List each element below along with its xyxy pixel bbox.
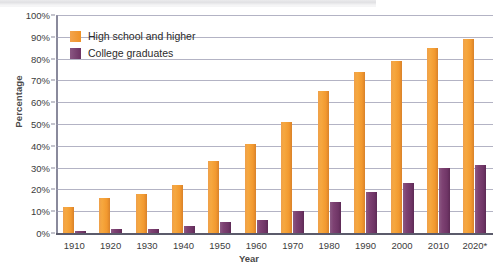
bar-high-school-1910 — [63, 207, 74, 233]
legend-item-college: College graduates — [70, 47, 195, 59]
x-axis-tick-label: 1910 — [64, 240, 85, 251]
bar-chart: Percentage Year 0%10%20%30%40%50%60%70%8… — [0, 0, 498, 273]
bar-group: 1970 — [275, 15, 311, 233]
bar-college-2020 — [475, 165, 486, 233]
bar-college-1940 — [184, 226, 195, 233]
y-axis-tick-label: 70% — [31, 75, 50, 86]
x-axis-tick-label: 2020* — [462, 240, 487, 251]
y-axis-title: Percentage — [13, 56, 24, 148]
legend-swatch-icon-college — [70, 48, 81, 59]
bar-high-school-1950 — [208, 161, 219, 233]
x-axis-tick-label: 1980 — [319, 240, 340, 251]
bar-college-1950 — [220, 222, 231, 233]
bar-group: 2020* — [457, 15, 493, 233]
x-axis-tick-label: 1940 — [173, 240, 194, 251]
legend-label-college: College graduates — [88, 47, 173, 59]
bar-college-1970 — [293, 211, 304, 233]
bar-high-school-1970 — [281, 122, 292, 233]
x-axis-tick-label: 2010 — [428, 240, 449, 251]
x-axis-tick-label: 1970 — [282, 240, 303, 251]
y-axis-tick-mark — [51, 124, 55, 125]
y-axis-tick-label: 10% — [31, 206, 50, 217]
bar-group: 2000 — [384, 15, 420, 233]
y-axis-tick-label: 50% — [31, 119, 50, 130]
chart-legend: High school and higher College graduates — [70, 30, 195, 59]
gridline — [56, 233, 493, 235]
bar-college-1920 — [111, 229, 122, 233]
x-axis-tick-label: 1930 — [136, 240, 157, 251]
bar-college-1910 — [75, 231, 86, 233]
bar-college-2010 — [439, 168, 450, 233]
legend-swatch-icon-high-school — [70, 31, 81, 42]
x-axis-tick-label: 1920 — [100, 240, 121, 251]
y-axis-tick-label: 30% — [31, 162, 50, 173]
bar-group: 1960 — [238, 15, 274, 233]
x-axis-tick-label: 1960 — [246, 240, 267, 251]
y-axis-tick-mark — [51, 80, 55, 81]
bar-high-school-2020 — [463, 39, 474, 233]
y-axis-tick-mark — [51, 58, 55, 59]
legend-label-high-school: High school and higher — [88, 30, 195, 42]
legend-item-high-school: High school and higher — [70, 30, 195, 42]
x-axis-tick-label: 2000 — [391, 240, 412, 251]
x-axis-tick-label: 1990 — [355, 240, 376, 251]
bar-high-school-1920 — [99, 198, 110, 233]
bar-high-school-1990 — [354, 72, 365, 233]
bar-group: 1980 — [311, 15, 347, 233]
y-axis-tick-label: 0% — [36, 228, 50, 239]
bar-group: 2010 — [420, 15, 456, 233]
y-axis-tick-mark — [51, 233, 55, 234]
y-axis-tick-mark — [51, 211, 55, 212]
y-axis-tick-mark — [51, 167, 55, 168]
y-axis-tick-mark — [51, 36, 55, 37]
bar-college-2000 — [403, 183, 414, 233]
y-axis-tick-label: 20% — [31, 184, 50, 195]
y-axis-tick-label: 90% — [31, 31, 50, 42]
bar-high-school-1960 — [245, 144, 256, 233]
x-axis-tick-label: 1950 — [209, 240, 230, 251]
bar-high-school-2000 — [391, 61, 402, 233]
bar-high-school-1980 — [318, 91, 329, 233]
bar-group: 1950 — [202, 15, 238, 233]
bar-college-1960 — [257, 220, 268, 233]
bar-high-school-1940 — [172, 185, 183, 233]
x-axis-title: Year — [0, 253, 498, 264]
y-axis-tick-mark — [51, 189, 55, 190]
bar-college-1930 — [148, 229, 159, 233]
y-axis-tick-mark — [51, 15, 55, 16]
y-axis-tick-mark — [51, 102, 55, 103]
y-axis-tick-label: 100% — [26, 10, 50, 21]
bar-college-1990 — [366, 192, 377, 233]
bar-high-school-1930 — [136, 194, 147, 233]
bar-group: 1990 — [347, 15, 383, 233]
y-axis-tick-mark — [51, 145, 55, 146]
y-axis-tick-label: 60% — [31, 97, 50, 108]
plot-area: 0%10%20%30%40%50%60%70%80%90%100% 191019… — [56, 15, 493, 233]
y-axis-tick-label: 40% — [31, 140, 50, 151]
y-axis-tick-label: 80% — [31, 53, 50, 64]
bar-high-school-2010 — [427, 48, 438, 233]
bar-college-1980 — [330, 202, 341, 233]
